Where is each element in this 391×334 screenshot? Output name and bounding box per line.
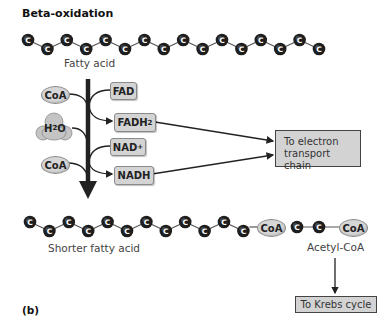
fatty-acid-label: Fatty acid (64, 57, 115, 69)
etc-line-2: transport chain (284, 148, 360, 172)
etc-line-1: To electron (284, 136, 360, 148)
svg-text:C: C (25, 36, 31, 45)
krebs-cycle-box: To Krebs cycle (295, 296, 377, 313)
nad-sup: + (137, 143, 143, 151)
electron-transport-box: To electron transport chain (275, 130, 361, 167)
panel-label: (b) (22, 304, 39, 316)
svg-text:C: C (122, 45, 128, 54)
svg-text:C: C (182, 218, 188, 227)
svg-text:C: C (241, 227, 247, 236)
nad-curve (89, 146, 112, 174)
acetyl-coa-group: CoA (339, 219, 368, 237)
water-input-curve (72, 128, 88, 144)
fatty-acid-chain: CCCCCCCCCCCCCCCC (22, 34, 326, 56)
svg-text:C: C (83, 45, 89, 54)
svg-text:C: C (105, 218, 111, 227)
svg-text:C: C (27, 218, 33, 227)
svg-text:C: C (161, 45, 167, 54)
fadh2-text: FADH (118, 117, 148, 128)
fad-tag: FAD (110, 82, 137, 100)
shorter-fatty-acid-label: Shorter fatty acid (48, 242, 140, 254)
water-h: H (44, 123, 52, 134)
svg-text:C: C (200, 45, 206, 54)
shorter-fatty-acid-coa: CoA (257, 219, 286, 237)
water-o: O (57, 123, 66, 134)
beta-oxidation-diagram: CCCCCCCCCCCCCCCC CCCCCCCCCCCC CC Beta-ox… (0, 0, 391, 334)
nadh-to-etc-arrow (152, 155, 273, 174)
svg-text:C: C (297, 36, 303, 45)
nad-tag: NAD+ (110, 138, 146, 156)
nadh-tag: NADH (114, 166, 154, 185)
svg-text:C: C (316, 223, 322, 232)
svg-text:C: C (221, 218, 227, 227)
fadh2-sub: 2 (148, 119, 153, 127)
nad-text: NAD (113, 142, 137, 153)
svg-text:C: C (239, 45, 245, 54)
svg-text:C: C (144, 218, 150, 227)
svg-text:C: C (258, 36, 264, 45)
coa-input-1: CoA (41, 86, 70, 104)
svg-text:C: C (64, 36, 70, 45)
svg-text:C: C (277, 45, 283, 54)
acetyl-coa-chain: CC (291, 221, 339, 234)
water-label: H2O (38, 120, 72, 136)
svg-text:C: C (316, 45, 322, 54)
coa-input-2: CoA (41, 156, 70, 174)
svg-text:C: C (47, 227, 53, 236)
coa-input-curve-2 (68, 163, 88, 178)
acetyl-coa-label: Acetyl-CoA (307, 241, 364, 253)
svg-text:C: C (163, 227, 169, 236)
svg-text:C: C (66, 218, 72, 227)
svg-text:C: C (103, 36, 109, 45)
svg-text:C: C (124, 227, 130, 236)
svg-text:C: C (202, 227, 208, 236)
diagram-title: Beta-oxidation (22, 7, 113, 20)
svg-text:C: C (294, 223, 300, 232)
fadh2-tag: FADH2 (114, 113, 156, 132)
fad-curve (89, 90, 112, 121)
svg-text:C: C (45, 45, 51, 54)
svg-text:C: C (219, 36, 225, 45)
svg-text:C: C (180, 36, 186, 45)
svg-text:C: C (142, 36, 148, 45)
fadh2-to-etc-arrow (155, 122, 273, 141)
svg-text:C: C (85, 227, 91, 236)
coa-input-curve (68, 94, 88, 108)
shorter-fatty-acid-chain: CCCCCCCCCCCC (24, 216, 257, 238)
